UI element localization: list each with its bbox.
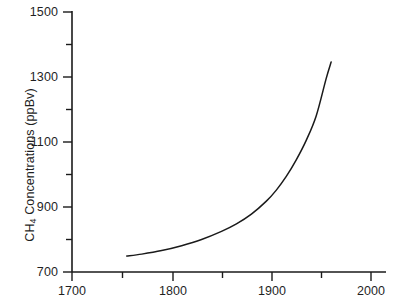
y-tick-label-1500: 1500 xyxy=(18,5,58,19)
x-tick-label-2000: 2000 xyxy=(357,284,385,298)
methane-concentration-chart: 1500 1300 1100 900 700 1700 1800 1900 20… xyxy=(0,0,393,303)
y-major-ticks xyxy=(63,12,72,272)
y-axis-title: CH4 Concentrations (ppBv) xyxy=(23,65,37,265)
x-tick-label-1900: 1900 xyxy=(258,284,286,298)
x-minor-ticks xyxy=(123,272,322,278)
y-axis-title-prefix: CH xyxy=(23,223,37,241)
x-tick-label-1700: 1700 xyxy=(58,284,86,298)
y-axis-title-suffix: Concentrations (ppBv) xyxy=(23,88,37,218)
methane-curve xyxy=(127,62,331,256)
y-tick-label-700: 700 xyxy=(18,265,58,279)
x-tick-label-1800: 1800 xyxy=(159,284,187,298)
x-major-ticks xyxy=(72,272,371,281)
y-axis-title-subscript: 4 xyxy=(28,218,38,223)
chart-plot-area xyxy=(0,0,393,303)
